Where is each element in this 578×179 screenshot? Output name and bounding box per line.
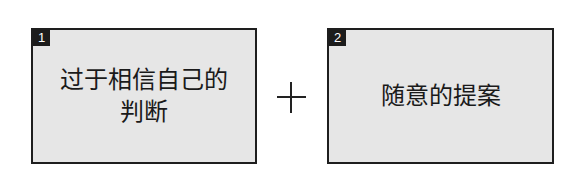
box-label: 随意的提案 [381,80,501,112]
concept-box-2: 2 随意的提案 [327,28,554,164]
box-label-line: 判断 [60,96,228,128]
number-badge: 2 [329,30,346,46]
number-badge: 1 [33,30,50,46]
plus-vertical-stroke [290,82,292,113]
box-label-line: 随意的提案 [381,80,501,112]
box-label: 过于相信自己的 判断 [60,64,228,128]
concept-box-1: 1 过于相信自己的 判断 [31,28,257,164]
box-label-line: 过于相信自己的 [60,64,228,96]
plus-icon [277,82,306,113]
